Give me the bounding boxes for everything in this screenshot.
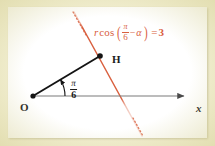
equation-cos: cos	[99, 27, 114, 38]
polar-line-dotted-bottom	[133, 118, 143, 136]
equation-equals: =	[151, 27, 157, 38]
angle-arc	[61, 80, 66, 96]
equation-fraction-denominator: 6	[122, 33, 129, 42]
diagram-panel: O H x π 6 r cos ( π 6 − α ) = 3	[8, 7, 207, 138]
origin-label: O	[20, 102, 29, 113]
equation-alpha: α	[136, 28, 141, 38]
equation-minus: −	[130, 28, 136, 38]
angle-denominator: 6	[70, 90, 77, 100]
equation-value: 3	[159, 27, 165, 38]
equation-fraction-numerator: π	[122, 23, 128, 31]
polar-equation-label: r cos ( π 6 − α ) = 3	[94, 23, 164, 42]
foot-point-label: H	[112, 54, 121, 65]
angle-fraction: π 6	[70, 79, 77, 100]
angle-numerator: π	[70, 79, 77, 88]
equation-close-paren: )	[144, 24, 148, 41]
angle-value-label: π 6	[70, 73, 77, 100]
equation-r: r	[94, 27, 98, 38]
equation-fraction: π 6	[122, 23, 129, 42]
point-H-dot	[97, 53, 103, 59]
ray-OH	[33, 56, 100, 96]
x-axis-label: x	[196, 103, 202, 114]
point-O-dot	[30, 93, 35, 98]
figure-root: O H x π 6 r cos ( π 6 − α ) = 3	[0, 0, 215, 146]
equation-open-paren: (	[117, 24, 121, 41]
